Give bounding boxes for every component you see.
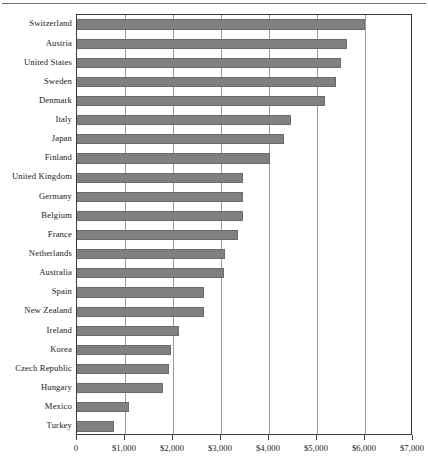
bar <box>77 134 284 144</box>
x-tick-mark <box>124 435 125 440</box>
x-tick-mark <box>364 435 365 440</box>
x-tick-label: $2,000 <box>160 443 184 454</box>
bar <box>77 364 169 374</box>
x-axis-tick-marks <box>76 435 412 441</box>
category-label: United Kingdom <box>0 171 72 181</box>
bar <box>77 58 341 68</box>
bar <box>77 287 204 297</box>
x-tick-mark <box>412 435 413 440</box>
bar <box>77 77 336 87</box>
bar-chart-figure: SwitzerlandAustriaUnited StatesSwedenDen… <box>0 0 428 466</box>
x-tick-label: $7,000 <box>400 443 424 454</box>
bar <box>77 402 129 412</box>
bar <box>77 19 365 29</box>
top-horizontal-rule <box>2 3 426 4</box>
category-label: Denmark <box>0 95 72 105</box>
category-label: Australia <box>0 267 72 277</box>
category-label: Belgium <box>0 210 72 220</box>
category-label: Germany <box>0 191 72 201</box>
x-tick-label: $4,000 <box>256 443 280 454</box>
x-tick-label: $1,000 <box>112 443 136 454</box>
category-label: Austria <box>0 38 72 48</box>
category-label: France <box>0 229 72 239</box>
category-label: Finland <box>0 152 72 162</box>
bar <box>77 345 171 355</box>
category-label: Switzerland <box>0 18 72 28</box>
category-label: New Zealand <box>0 305 72 315</box>
x-axis-tick-labels: 0$1,000$2,000$3,000$4,000$5,000$6,000$7,… <box>0 443 428 459</box>
bar <box>77 307 204 317</box>
bar <box>77 230 238 240</box>
x-tick-label: $6,000 <box>352 443 376 454</box>
bar <box>77 326 179 336</box>
category-label: Japan <box>0 133 72 143</box>
category-label: Korea <box>0 344 72 354</box>
bar <box>77 173 243 183</box>
bars-layer <box>77 15 411 434</box>
plot-area <box>76 14 412 435</box>
category-label: Italy <box>0 114 72 124</box>
category-label: Sweden <box>0 76 72 86</box>
x-tick-label: $3,000 <box>208 443 232 454</box>
bar <box>77 192 243 202</box>
category-label: Mexico <box>0 401 72 411</box>
bar <box>77 211 243 221</box>
x-tick-mark <box>172 435 173 440</box>
x-tick-mark <box>268 435 269 440</box>
bar <box>77 421 114 431</box>
category-label: Czech Republic <box>0 363 72 373</box>
category-label: Spain <box>0 286 72 296</box>
bar <box>77 249 225 259</box>
category-label: Ireland <box>0 325 72 335</box>
bar <box>77 153 270 163</box>
bar <box>77 96 325 106</box>
bar <box>77 39 347 49</box>
x-tick-label: $5,000 <box>304 443 328 454</box>
x-tick-mark <box>220 435 221 440</box>
bar <box>77 115 291 125</box>
category-label: United States <box>0 57 72 67</box>
x-tick-label: 0 <box>74 443 78 454</box>
category-label: Netherlands <box>0 248 72 258</box>
x-tick-mark <box>316 435 317 440</box>
bar <box>77 383 163 393</box>
y-axis-category-labels: SwitzerlandAustriaUnited StatesSwedenDen… <box>0 14 72 435</box>
category-label: Hungary <box>0 382 72 392</box>
x-tick-mark <box>76 435 77 440</box>
bar <box>77 268 224 278</box>
category-label: Turkey <box>0 420 72 430</box>
